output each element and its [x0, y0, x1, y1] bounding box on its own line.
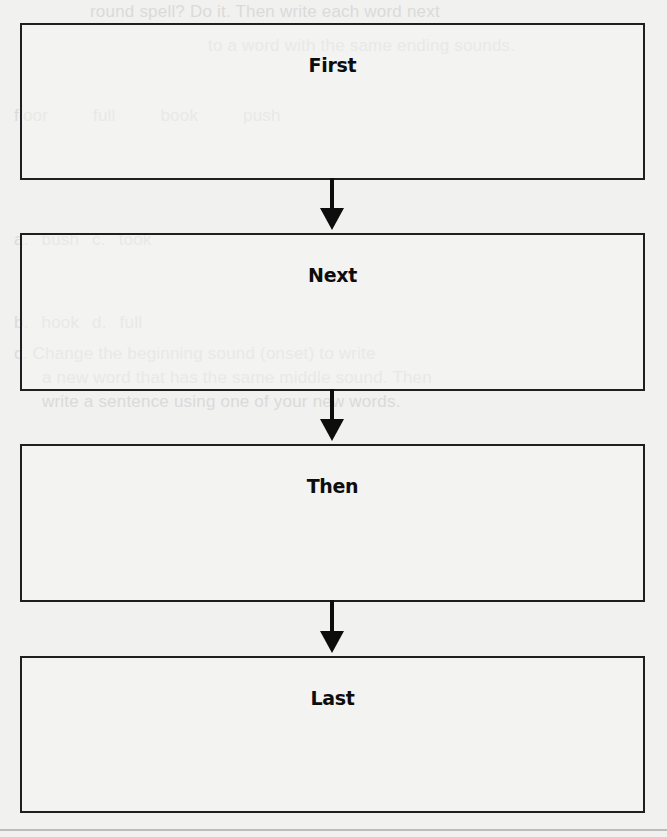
flow-box-label: Next: [22, 264, 643, 286]
flow-box-label: Then: [22, 475, 643, 497]
down-arrow-icon: [320, 178, 344, 232]
flow-box-next: Next: [20, 233, 645, 391]
bleed-text-line-8: write a sentence using one of your new w…: [42, 392, 401, 412]
flow-box-then: Then: [20, 444, 645, 602]
bleed-text-line-1: round spell? Do it. Then write each word…: [90, 2, 440, 22]
flow-box-label: First: [22, 54, 643, 76]
flow-box-label: Last: [22, 687, 643, 709]
down-arrow-icon: [320, 600, 344, 655]
flow-box-last: Last: [20, 656, 645, 813]
down-arrow-icon: [320, 389, 344, 443]
page-edge-divider: [0, 829, 667, 831]
flow-box-first: First: [20, 23, 645, 180]
